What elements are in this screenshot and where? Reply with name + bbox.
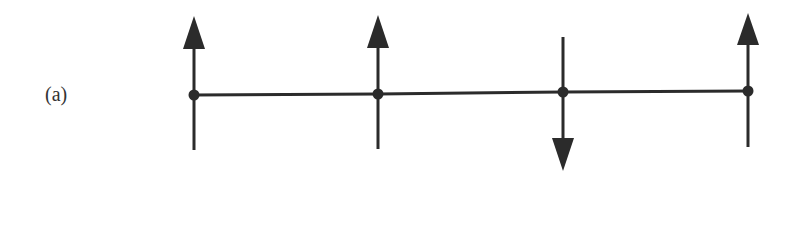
timeline-segment [194,94,378,95]
timeline-node [373,89,384,100]
timeline-node [558,87,569,98]
timeline-segment [563,91,748,92]
arrow-down-icon [552,138,574,171]
arrow-up-icon [367,15,389,48]
timeline-segment [378,92,563,94]
diagram-canvas: (a) [0,0,795,243]
cash-flow-diagram [0,0,795,243]
timeline-node [743,86,754,97]
arrow-up-icon [737,13,759,45]
arrow-up-icon [183,16,205,49]
timeline-node [189,90,200,101]
timeline-axis [194,91,748,95]
